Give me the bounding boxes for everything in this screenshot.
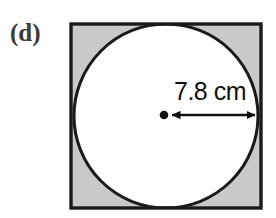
- radius-dimension-label: 7.8 cm: [174, 77, 246, 105]
- figure-container: (d) 7.8 cm: [0, 0, 276, 218]
- circle-center-dot: [160, 111, 169, 120]
- geometry-diagram: 7.8 cm: [0, 0, 276, 218]
